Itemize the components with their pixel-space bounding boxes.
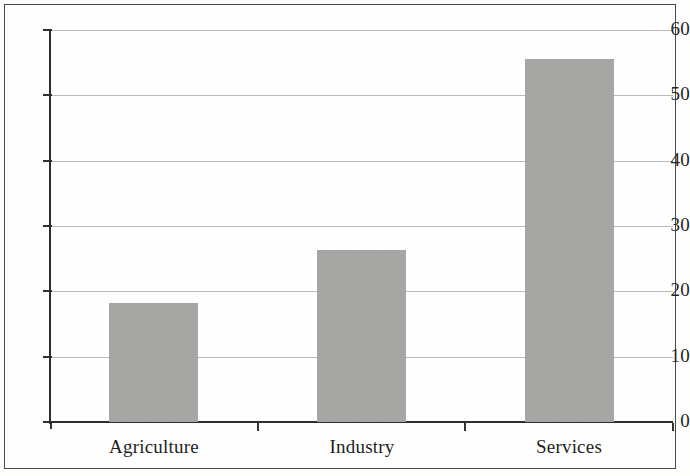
y-axis-tick-label: 50 bbox=[652, 84, 690, 103]
bar-services bbox=[525, 59, 614, 422]
bar-agriculture bbox=[109, 303, 198, 422]
x-axis-tick bbox=[464, 423, 466, 431]
x-axis-tick bbox=[672, 423, 674, 431]
y-axis-tick-label: 40 bbox=[652, 150, 690, 169]
x-axis-category-label: Services bbox=[465, 436, 673, 458]
x-axis-category-label: Agriculture bbox=[50, 436, 258, 458]
x-axis-tick bbox=[50, 423, 52, 429]
bar-industry bbox=[317, 250, 406, 422]
chart-figure: 0102030405060AgricultureIndustryServices bbox=[0, 0, 690, 476]
y-axis-tick-label: 20 bbox=[652, 280, 690, 299]
x-axis-category-label: Industry bbox=[258, 436, 466, 458]
y-axis-tick-label: 30 bbox=[652, 215, 690, 234]
chart-plot-area: 0102030405060AgricultureIndustryServices bbox=[0, 0, 690, 476]
y-axis-tick-label: 10 bbox=[652, 346, 690, 365]
gridline bbox=[50, 30, 673, 31]
y-axis-tick-label: 60 bbox=[652, 19, 690, 38]
y-axis-line bbox=[49, 29, 51, 424]
x-axis-tick bbox=[257, 423, 259, 431]
